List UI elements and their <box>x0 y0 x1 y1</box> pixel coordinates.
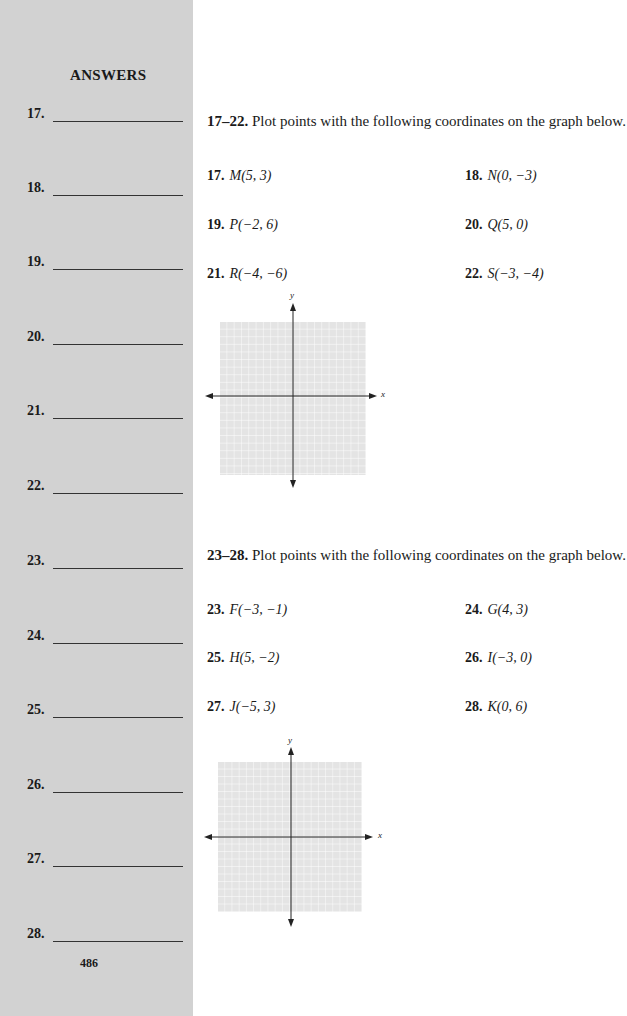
problem-23: 23.F(−3, −1) <box>207 602 287 618</box>
problem-point: F(−3, −1) <box>230 602 288 617</box>
problem-point: P(−2, 6) <box>230 217 278 232</box>
answer-line[interactable] <box>53 866 183 867</box>
problem-17: 17.M(5, 3) <box>207 168 272 184</box>
problem-point: N(0, −3) <box>488 168 537 183</box>
problem-number: 18. <box>465 168 483 183</box>
section-1-instruction: 17–22. Plot points with the following co… <box>207 113 626 130</box>
problem-point: H(5, −2) <box>230 650 280 665</box>
answer-field-17[interactable]: 17. <box>27 104 187 124</box>
answer-line[interactable] <box>53 195 183 196</box>
grid-plane[interactable] <box>200 292 390 497</box>
answer-line[interactable] <box>53 568 183 569</box>
answer-line[interactable] <box>53 269 183 270</box>
problem-number: 25. <box>207 650 225 665</box>
problem-21: 21.R(−4, −6) <box>207 266 287 282</box>
answer-label: 24. <box>27 628 45 644</box>
answer-label: 19. <box>27 254 45 270</box>
problem-28: 28.K(0, 6) <box>465 699 527 715</box>
problem-point: Q(5, 0) <box>488 217 528 232</box>
answer-label: 27. <box>27 851 45 867</box>
answer-label: 23. <box>27 553 45 569</box>
answer-label: 28. <box>27 926 45 942</box>
problem-20: 20.Q(5, 0) <box>465 217 528 233</box>
problem-point: M(5, 3) <box>230 168 272 183</box>
problem-26: 26.I(−3, 0) <box>465 650 532 666</box>
answer-line[interactable] <box>53 792 183 793</box>
coordinate-grid-1[interactable]: x y <box>200 292 390 497</box>
problem-number: 19. <box>207 217 225 232</box>
problem-point: J(−5, 3) <box>230 699 276 714</box>
answer-label: 18. <box>27 180 45 196</box>
answer-field-28[interactable]: 28. <box>27 924 187 944</box>
problem-number: 20. <box>465 217 483 232</box>
problem-18: 18.N(0, −3) <box>465 168 537 184</box>
problem-number: 24. <box>465 602 483 617</box>
answer-line[interactable] <box>53 493 183 494</box>
answer-label: 26. <box>27 777 45 793</box>
problem-22: 22.S(−3, −4) <box>465 266 544 282</box>
grid-plane[interactable] <box>200 732 390 937</box>
problem-number: 21. <box>207 266 225 281</box>
instruction-text: Plot points with the following coordinat… <box>248 547 626 563</box>
problem-number: 26. <box>465 650 483 665</box>
y-axis-label: y <box>290 290 294 300</box>
answers-sidebar: ANSWERS 17. 18. 19. 20. 21. 22. 23. 24. … <box>0 0 193 1016</box>
problem-24: 24.G(4, 3) <box>465 602 528 618</box>
section-2-instruction: 23–28. Plot points with the following co… <box>207 547 626 564</box>
answer-label: 20. <box>27 329 45 345</box>
answer-field-27[interactable]: 27. <box>27 849 187 869</box>
x-axis-label: x <box>378 830 382 840</box>
problem-number: 23. <box>207 602 225 617</box>
answer-field-26[interactable]: 26. <box>27 775 187 795</box>
coordinate-grid-2[interactable]: x y <box>200 732 390 937</box>
y-axis-label: y <box>288 735 292 745</box>
answer-field-18[interactable]: 18. <box>27 178 187 198</box>
answer-line[interactable] <box>53 344 183 345</box>
answer-line[interactable] <box>53 643 183 644</box>
section-range: 17–22. <box>207 113 248 129</box>
answer-field-25[interactable]: 25. <box>27 700 187 720</box>
answer-field-21[interactable]: 21. <box>27 401 187 421</box>
answer-field-22[interactable]: 22. <box>27 476 187 496</box>
answer-label: 17. <box>27 106 45 122</box>
problem-19: 19.P(−2, 6) <box>207 217 278 233</box>
problem-point: I(−3, 0) <box>488 650 532 665</box>
problem-point: K(0, 6) <box>488 699 528 714</box>
problem-point: G(4, 3) <box>488 602 528 617</box>
problem-27: 27.J(−5, 3) <box>207 699 276 715</box>
problem-number: 22. <box>465 266 483 281</box>
problem-number: 27. <box>207 699 225 714</box>
answer-label: 22. <box>27 478 45 494</box>
answer-field-23[interactable]: 23. <box>27 551 187 571</box>
answer-line[interactable] <box>53 717 183 718</box>
answer-field-24[interactable]: 24. <box>27 626 187 646</box>
answer-label: 25. <box>27 702 45 718</box>
instruction-text: Plot points with the following coordinat… <box>248 113 626 129</box>
x-axis-label: x <box>381 389 385 399</box>
problem-point: S(−3, −4) <box>488 266 544 281</box>
answer-line[interactable] <box>53 418 183 419</box>
answer-line[interactable] <box>53 941 183 942</box>
page-number: 486 <box>80 956 98 971</box>
answer-line[interactable] <box>53 121 183 122</box>
problem-number: 28. <box>465 699 483 714</box>
answer-field-20[interactable]: 20. <box>27 327 187 347</box>
answer-label: 21. <box>27 403 45 419</box>
answer-field-19[interactable]: 19. <box>27 252 187 272</box>
problem-point: R(−4, −6) <box>230 266 288 281</box>
answers-heading: ANSWERS <box>70 67 146 84</box>
problem-number: 17. <box>207 168 225 183</box>
section-range: 23–28. <box>207 547 248 563</box>
problem-25: 25.H(5, −2) <box>207 650 279 666</box>
